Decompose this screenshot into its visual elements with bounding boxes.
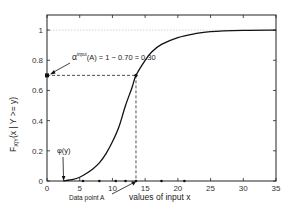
axis-data-marker xyxy=(160,180,163,183)
cdf-chart: 05101520253035 00.20.40.60.81 αinput(A) … xyxy=(0,0,293,214)
y-tick-label: 0.8 xyxy=(32,56,44,65)
point-a-marker xyxy=(134,74,137,77)
y-tick-label: 0.4 xyxy=(32,117,44,126)
x-tick-label: 0 xyxy=(45,184,50,193)
y-tick-label: 0.2 xyxy=(32,147,44,156)
axis-data-marker xyxy=(183,180,186,183)
axis-data-marker xyxy=(114,180,117,183)
y-tick-label: 0 xyxy=(39,177,44,186)
y-axis-marker xyxy=(45,73,49,77)
data-point-a-label: Data point A xyxy=(69,194,105,202)
y-tick-label: 1 xyxy=(39,26,44,35)
alpha-arrowhead xyxy=(50,70,56,75)
x-axis-title: values of input x xyxy=(129,192,191,202)
x-axis-ticks: 05101520253035 xyxy=(45,15,281,193)
y-axis-title: FX|Y(x | Y >= y) xyxy=(8,97,19,152)
x-tick-label: 35 xyxy=(272,184,281,193)
x-tick-label: 30 xyxy=(239,184,248,193)
x-tick-label: 5 xyxy=(77,184,82,193)
axis-data-marker xyxy=(82,180,85,183)
alpha-arrow xyxy=(52,63,70,73)
phi-arrow xyxy=(63,157,64,178)
x-tick-label: 25 xyxy=(206,184,215,193)
axis-data-marker xyxy=(124,180,127,183)
plot-frame xyxy=(47,15,276,181)
alpha-annotation: αinput(A) = 1 − 0.70 = 0.30 xyxy=(72,52,156,62)
axis-data-marker xyxy=(98,180,101,183)
phi-label: φ(y) xyxy=(57,146,71,155)
y-tick-label: 0.6 xyxy=(32,86,44,95)
